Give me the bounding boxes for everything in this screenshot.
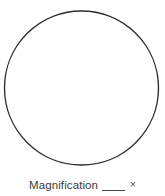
- field-of-view-container: [0, 0, 165, 172]
- multiplication-sign-icon: ×: [130, 179, 136, 190]
- field-of-view-circle: [0, 0, 165, 172]
- caption: Magnification ×: [0, 174, 165, 196]
- field-of-view-outline: [5, 11, 159, 165]
- magnification-label: Magnification: [29, 178, 98, 192]
- figure-root: Magnification ×: [0, 0, 165, 196]
- magnification-blank-field[interactable]: [102, 180, 125, 191]
